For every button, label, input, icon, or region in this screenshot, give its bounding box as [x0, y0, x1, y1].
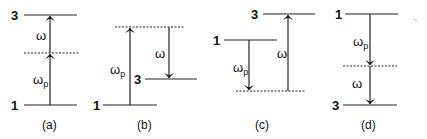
panel-caption: (c): [255, 118, 269, 132]
omega-p-label: ωp: [33, 72, 48, 89]
omega-label: ω: [155, 46, 165, 61]
level-label: 3: [134, 72, 141, 87]
level-label: 1: [213, 33, 220, 48]
level-label: 3: [11, 8, 18, 23]
level-label: 1: [11, 98, 18, 113]
panel-b: 1 3 ω ωp (b): [93, 27, 197, 132]
panel-c: 3 1 ωp ω (c): [213, 7, 315, 132]
omega-label: ω: [36, 28, 46, 43]
panel-caption: (a): [42, 118, 57, 132]
omega-label: ω: [352, 76, 362, 91]
omega-p-label: ωp: [233, 60, 248, 77]
level-label: 3: [251, 7, 258, 22]
level-label: 1: [93, 98, 100, 113]
omega-label: ω: [277, 46, 287, 61]
panel-caption: (b): [137, 118, 152, 132]
panel-caption: (d): [361, 118, 376, 132]
omega-p-label: ωp: [353, 34, 368, 51]
level-label: 3: [332, 98, 339, 113]
stray-mark: [413, 19, 417, 21]
panel-a: 3 1 ω ωp (a): [11, 8, 79, 132]
omega-p-label: ωp: [110, 62, 125, 79]
level-label: 1: [335, 7, 342, 22]
panel-d: 1 3 ωp ω (d): [332, 7, 398, 132]
energy-level-diagram: 3 1 ω ωp (a) 1 3 ω ωp (b) 3 1 ωp ω (c): [0, 0, 427, 139]
